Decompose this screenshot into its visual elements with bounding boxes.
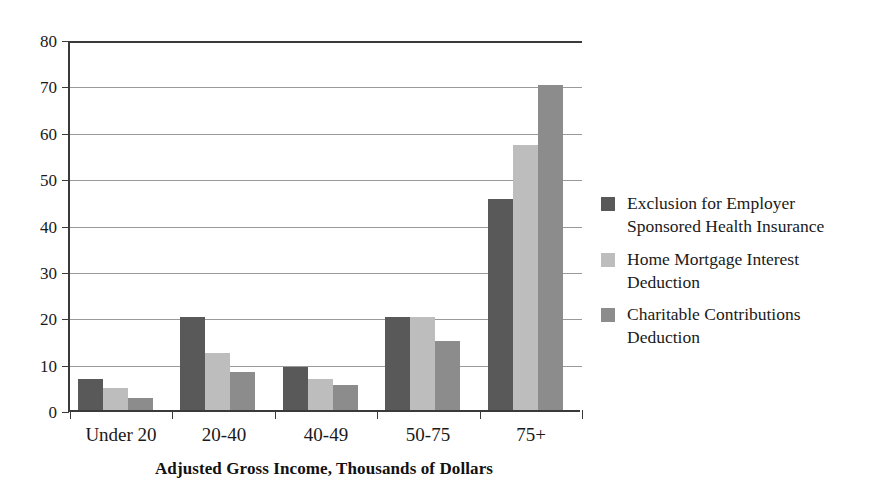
bar bbox=[103, 388, 128, 410]
y-tick-mark bbox=[62, 41, 69, 42]
x-tick-mark bbox=[172, 410, 173, 419]
bar bbox=[333, 385, 358, 410]
bar bbox=[230, 372, 255, 410]
x-tick-label: Under 20 bbox=[85, 424, 156, 446]
x-tick-mark bbox=[70, 410, 71, 419]
x-tick-mark bbox=[480, 410, 481, 419]
bar bbox=[308, 379, 333, 410]
bar bbox=[385, 317, 410, 410]
y-tick-mark bbox=[62, 87, 69, 88]
x-axis-title: Adjusted Gross Income, Thousands of Doll… bbox=[68, 459, 580, 479]
y-tick-mark bbox=[62, 412, 69, 413]
legend-item: Charitable Contributions Deduction bbox=[601, 303, 885, 350]
legend-item: Home Mortgage Interest Deduction bbox=[601, 248, 885, 295]
bar bbox=[488, 199, 513, 410]
bar bbox=[205, 353, 230, 411]
bar bbox=[180, 317, 205, 410]
y-tick-label: 20 bbox=[40, 311, 57, 328]
y-tick-mark bbox=[62, 366, 69, 367]
bar bbox=[128, 398, 153, 410]
x-tick-label: 50-75 bbox=[406, 424, 450, 446]
y-tick-label: 0 bbox=[49, 404, 58, 421]
bar-group bbox=[377, 39, 479, 410]
bar-group bbox=[480, 39, 582, 410]
legend-swatch bbox=[601, 253, 615, 267]
legend-swatch bbox=[601, 197, 615, 211]
x-tick-mark bbox=[377, 410, 378, 419]
x-tick-mark bbox=[275, 410, 276, 419]
x-tick-mark bbox=[582, 410, 583, 419]
y-tick-label: 80 bbox=[40, 33, 57, 50]
bar-group bbox=[172, 39, 274, 410]
legend-label: Charitable Contributions Deduction bbox=[627, 303, 801, 350]
bar bbox=[410, 317, 435, 410]
legend-item: Exclusion for Employer Sponsored Health … bbox=[601, 192, 885, 239]
y-tick-mark bbox=[62, 180, 69, 181]
x-tick-label: 75+ bbox=[516, 424, 546, 446]
y-tick-label: 60 bbox=[40, 125, 57, 142]
bar bbox=[538, 85, 563, 410]
bar bbox=[435, 341, 460, 410]
bar bbox=[283, 367, 308, 410]
legend-label: Exclusion for Employer Sponsored Health … bbox=[627, 192, 824, 239]
y-tick-label: 70 bbox=[40, 79, 57, 96]
y-tick-mark bbox=[62, 319, 69, 320]
legend-swatch bbox=[601, 308, 615, 322]
bar bbox=[78, 379, 103, 410]
y-tick-mark bbox=[62, 273, 69, 274]
y-tick-label: 50 bbox=[40, 172, 57, 189]
x-tick-label: 20-40 bbox=[202, 424, 246, 446]
bar-group bbox=[70, 39, 172, 410]
y-tick-label: 30 bbox=[40, 264, 57, 281]
y-tick-label: 10 bbox=[40, 357, 57, 374]
y-tick-mark bbox=[62, 134, 69, 135]
bar-chart: 01020304050607080 Under 2020-4040-4950-7… bbox=[0, 0, 888, 501]
y-tick-label: 40 bbox=[40, 218, 57, 235]
bar-groups bbox=[70, 39, 582, 410]
bar bbox=[513, 145, 538, 410]
legend-label: Home Mortgage Interest Deduction bbox=[627, 248, 799, 295]
x-tick-label: 40-49 bbox=[304, 424, 348, 446]
y-tick-mark bbox=[62, 227, 69, 228]
plot-area: 01020304050607080 Under 2020-4040-4950-7… bbox=[68, 41, 580, 412]
chart-legend: Exclusion for Employer Sponsored Health … bbox=[601, 192, 885, 359]
bar-group bbox=[275, 39, 377, 410]
